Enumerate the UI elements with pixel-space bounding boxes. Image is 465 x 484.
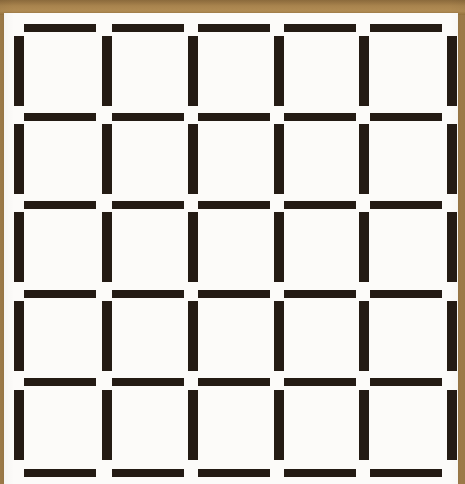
grid-bar-horizontal-r1-c3 (284, 113, 356, 121)
grid-bar-vertical-r0-c4 (359, 36, 369, 106)
grid-bar-vertical-r0-c1 (102, 36, 112, 106)
grid-bar-horizontal-r3-c1 (112, 290, 184, 298)
grid-bar-horizontal-r1-c0 (24, 113, 96, 121)
grid-bar-vertical-r4-c3 (274, 390, 284, 460)
grid-bar-horizontal-r4-c0 (24, 378, 96, 386)
grid-bar-vertical-r4-c1 (102, 390, 112, 460)
grid-bar-vertical-r1-c2 (188, 124, 198, 194)
grid-bar-vertical-r4-c5 (447, 390, 457, 460)
grid-bar-horizontal-r2-c0 (24, 201, 96, 209)
grid-bar-vertical-r0-c2 (188, 36, 198, 106)
grid-bar-horizontal-r3-c3 (284, 290, 356, 298)
grid-bar-horizontal-r3-c2 (198, 290, 270, 298)
grid-bar-vertical-r1-c5 (447, 124, 457, 194)
grid-bar-vertical-r2-c4 (359, 212, 369, 282)
grid-bar-horizontal-r0-c4 (370, 24, 442, 32)
grid-bar-vertical-r3-c4 (359, 301, 369, 371)
grid-bar-horizontal-r5-c4 (370, 469, 442, 477)
grid-bar-vertical-r2-c5 (447, 212, 457, 282)
grid-bar-vertical-r1-c4 (359, 124, 369, 194)
grid-bar-vertical-r3-c3 (274, 301, 284, 371)
grid-bar-vertical-r3-c2 (188, 301, 198, 371)
grid-bar-horizontal-r0-c0 (24, 24, 96, 32)
grid-bar-horizontal-r4-c2 (198, 378, 270, 386)
grid-bar-horizontal-r4-c3 (284, 378, 356, 386)
grid-bar-vertical-r0-c5 (447, 36, 457, 106)
grid-bar-vertical-r3-c5 (447, 301, 457, 371)
grid-bar-vertical-r1-c1 (102, 124, 112, 194)
grid-bar-vertical-r2-c1 (102, 212, 112, 282)
grid-bar-horizontal-r3-c4 (370, 290, 442, 298)
grid-bar-horizontal-r2-c2 (198, 201, 270, 209)
grid-bar-vertical-r2-c0 (14, 212, 24, 282)
grid-bar-horizontal-r5-c1 (112, 469, 184, 477)
grid-bar-vertical-r0-c0 (14, 36, 24, 106)
grid-bar-horizontal-r0-c1 (112, 24, 184, 32)
grid-bar-horizontal-r5-c2 (198, 469, 270, 477)
grid-bar-vertical-r2-c3 (274, 212, 284, 282)
grid-bar-horizontal-r0-c3 (284, 24, 356, 32)
grid-bar-vertical-r0-c3 (274, 36, 284, 106)
grid-bar-horizontal-r3-c0 (24, 290, 96, 298)
grid-bar-vertical-r2-c2 (188, 212, 198, 282)
grid-bar-horizontal-r1-c1 (112, 113, 184, 121)
grid-bar-horizontal-r2-c4 (370, 201, 442, 209)
grid-bar-vertical-r4-c4 (359, 390, 369, 460)
grid-bar-vertical-r3-c0 (14, 301, 24, 371)
grid-bar-vertical-r3-c1 (102, 301, 112, 371)
paper-sheet (4, 13, 458, 484)
grid-bar-horizontal-r4-c1 (112, 378, 184, 386)
grid-bar-vertical-r1-c3 (274, 124, 284, 194)
grid-bar-vertical-r1-c0 (14, 124, 24, 194)
grid-bar-horizontal-r0-c2 (198, 24, 270, 32)
grid-bar-horizontal-r5-c3 (284, 469, 356, 477)
grid-bar-horizontal-r1-c4 (370, 113, 442, 121)
grid-bar-horizontal-r5-c0 (24, 469, 96, 477)
grid-bar-horizontal-r2-c1 (112, 201, 184, 209)
grid-bar-vertical-r4-c2 (188, 390, 198, 460)
grid-bar-vertical-r4-c0 (14, 390, 24, 460)
grid-bar-horizontal-r1-c2 (198, 113, 270, 121)
grid-bar-horizontal-r2-c3 (284, 201, 356, 209)
grid-bar-horizontal-r4-c4 (370, 378, 442, 386)
figure-canvas (0, 0, 465, 484)
